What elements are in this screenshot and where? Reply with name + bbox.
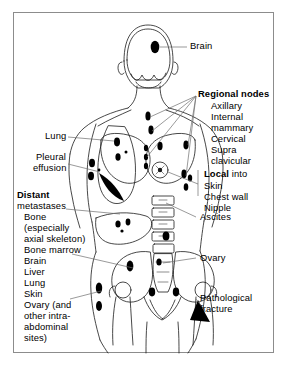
internal-mammary-node-1 <box>144 145 148 151</box>
distant-item-brain: Brain <box>24 256 46 267</box>
label-ascites: Ascites <box>200 212 231 223</box>
leader-ovary <box>163 258 196 263</box>
label-pleural-effusion-line1: Pleural <box>36 152 66 163</box>
lung-nodule-2 <box>115 153 120 161</box>
label-ovary: Ovary <box>200 253 226 264</box>
iliac-metastasis <box>127 261 134 272</box>
regional-nodes-item-internal: Internal <box>211 112 243 123</box>
local-item-chest-wall: Chest wall <box>204 192 248 203</box>
internal-mammary-node-3 <box>144 163 148 169</box>
label-brain: Brain <box>190 41 212 52</box>
regional-nodes-item-mammary: mammary <box>211 123 253 134</box>
lung-nodule-1 <box>114 138 120 147</box>
regional-nodes-item-supra: Supra <box>211 145 237 156</box>
lung-nodule-3 <box>125 151 128 154</box>
local-heading: Local into <box>204 169 247 180</box>
liver-metastasis-2 <box>126 219 131 226</box>
local-item-skin: Skin <box>204 181 223 192</box>
liver-metastasis-1 <box>115 220 120 227</box>
distant-item-sites: sites) <box>24 333 47 344</box>
regional-nodes-item-clavicular: clavicular <box>211 156 251 167</box>
liver-outline <box>96 213 152 244</box>
leader-pleural-effusion <box>68 164 100 172</box>
leg-contours <box>100 322 196 353</box>
distant-item-liver: Liver <box>24 267 45 278</box>
leader-distant-skin <box>70 291 101 299</box>
distant-item-lung: Lung <box>24 278 45 289</box>
distant-item-bone-marrow: Bone marrow <box>24 245 81 256</box>
distant-item-bone: Bone <box>24 212 46 223</box>
axillary-node-2 <box>181 170 186 179</box>
sacral-metastasis-right <box>173 288 179 297</box>
distant-heading-bold: Distant <box>17 190 49 201</box>
vertebral-metastasis <box>163 231 170 240</box>
regional-nodes-heading: Regional nodes <box>198 89 269 100</box>
leader-ascites <box>166 203 196 217</box>
brain-metastasis <box>151 41 160 53</box>
skin-deposit-1 <box>89 159 95 167</box>
vertebral-column <box>152 196 174 253</box>
cervical-node <box>145 111 150 120</box>
local-heading-rest: into <box>229 168 247 179</box>
distant-item-skin: Skin <box>24 289 43 300</box>
distant-item-ovary: Ovary (and <box>24 300 71 311</box>
label-pathological-fracture-line2: fracture <box>200 304 233 315</box>
sacral-metastasis-left <box>149 288 155 297</box>
axillary-node-1 <box>183 141 188 150</box>
label-lung: Lung <box>45 131 66 142</box>
axillary-node-4 <box>184 183 189 191</box>
distant-heading-rest: metastases <box>17 201 66 212</box>
skin-deposit-2 <box>88 172 94 180</box>
liver-metastasis-3 <box>120 229 123 232</box>
leader-distant-bone <box>66 209 120 214</box>
skin-deposit-3 <box>98 169 101 172</box>
label-pleural-effusion-line2: effusion <box>33 163 66 174</box>
distant-item-especially: (especially <box>24 223 69 234</box>
distant-item-other-intra: other intra- <box>24 311 71 322</box>
pleural-effusion-shading <box>99 173 124 201</box>
label-pathological-fracture-line1: Pathological <box>200 293 252 304</box>
distant-item-axial-skeleton: axial skeleton) <box>24 234 85 245</box>
regional-nodes-item-cervical: Cervical <box>211 134 246 145</box>
diagram-canvas: Brain Lung Pleural effusion Regional nod… <box>0 0 286 366</box>
internal-mammary-node-2 <box>144 154 148 160</box>
distant-item-abdominal: abdominal <box>24 322 68 333</box>
local-heading-bold: Local <box>204 168 229 179</box>
regional-nodes-item-axillary: Axillary <box>211 101 242 112</box>
skin-deposit-5 <box>96 301 102 311</box>
ovary-deposit <box>156 258 161 265</box>
head-outline <box>118 25 178 88</box>
leader-distant-marrow <box>72 254 133 268</box>
